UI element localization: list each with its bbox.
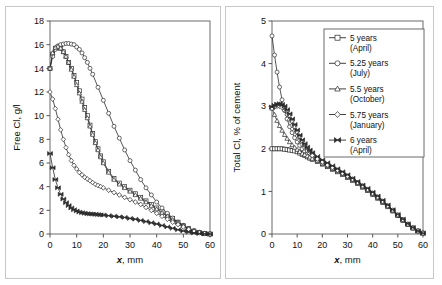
chart-panel-left: 0246810121416180102030405060x, mmFree Cl…: [5, 6, 221, 279]
data-point-marker-circle: [275, 70, 279, 74]
data-point-marker-triangle: [280, 128, 284, 132]
legend-label-primary: 5.25 years: [350, 59, 388, 68]
x-tick-label: 20: [98, 240, 108, 250]
data-point-marker-circle: [88, 66, 92, 70]
x-tick-label: 60: [205, 240, 215, 250]
y-tick-label: 8: [39, 135, 44, 145]
data-point-marker-diamond: [128, 197, 132, 202]
data-point-marker-cross: [149, 221, 154, 225]
data-point-marker-circle: [139, 178, 143, 182]
x-axis-label: x, mm: [116, 254, 143, 265]
chart-panel-right: 0123450102030405060x, mmTotal Cl, % of c…: [225, 6, 434, 279]
data-point-marker-circle: [149, 193, 153, 197]
x-tick-label: 50: [393, 240, 403, 250]
data-point-marker-circle: [133, 168, 137, 172]
legend-label-primary: 5.5 years: [350, 85, 384, 94]
data-point-marker-diamond: [64, 145, 68, 150]
data-point-marker-cross: [160, 223, 165, 227]
y-tick-label: 18: [34, 16, 44, 26]
data-point-marker-cross: [292, 123, 297, 127]
y-axis-label: Total Cl, % of cement: [231, 82, 242, 172]
data-point-marker-circle: [270, 34, 274, 38]
data-point-marker-diamond: [117, 193, 121, 198]
data-point-marker-circle: [273, 53, 277, 57]
data-point-marker-cross: [58, 192, 63, 196]
x-tick-label: 50: [178, 240, 188, 250]
legend-label-secondary: (January): [350, 121, 385, 130]
data-point-marker-circle: [80, 51, 84, 55]
data-point-marker-cross: [295, 128, 300, 132]
data-point-marker-circle: [96, 85, 100, 89]
figure: 0246810121416180102030405060x, mmFree Cl…: [0, 0, 442, 285]
y-tick-label: 1: [261, 187, 266, 197]
data-point-marker-diamond: [48, 90, 52, 95]
data-point-marker-diamond: [122, 195, 126, 200]
y-tick-label: 0: [261, 229, 266, 239]
x-tick-label: 30: [125, 240, 135, 250]
y-axis-label: Free Cl, g/l: [11, 104, 22, 150]
legend-label-primary: 6 years: [350, 136, 377, 145]
data-point-marker-circle: [335, 61, 340, 66]
data-point-marker-circle: [85, 60, 89, 64]
data-point-marker-diamond: [112, 190, 116, 195]
data-point-marker-circle: [101, 98, 105, 102]
y-tick-label: 2: [261, 144, 266, 154]
legend-label-secondary: (October): [350, 95, 385, 104]
x-tick-label: 0: [269, 240, 274, 250]
data-point-marker-cross: [165, 225, 170, 229]
data-point-marker-cross: [128, 216, 133, 220]
x-tick-label: 30: [342, 240, 352, 250]
data-point-marker-circle: [155, 200, 159, 204]
y-tick-label: 2: [39, 206, 44, 216]
legend: 5 years(April)5.25 years(July)5.5 years(…: [324, 29, 424, 157]
data-point-marker-cross: [297, 133, 302, 137]
data-point-marker-circle: [123, 148, 127, 152]
data-point-marker-diamond: [138, 202, 142, 207]
data-point-marker-circle: [278, 85, 282, 89]
data-point-marker-diamond: [144, 205, 148, 210]
data-point-marker-cross: [144, 220, 149, 224]
y-tick-label: 16: [34, 40, 44, 50]
data-point-marker-square: [335, 35, 340, 40]
legend-label-primary: 5.75 years: [350, 111, 388, 120]
data-point-marker-diamond: [106, 188, 110, 193]
data-point-marker-diamond: [50, 97, 54, 102]
data-point-marker-diamond: [56, 117, 60, 122]
data-point-marker-triangle: [272, 112, 276, 116]
legend-label-secondary: (July): [350, 69, 370, 78]
data-point-marker-cross: [290, 117, 295, 121]
y-tick-label: 0: [39, 229, 44, 239]
y-tick-label: 10: [34, 111, 44, 121]
data-point-marker-cross: [287, 112, 292, 116]
x-tick-label: 20: [317, 240, 327, 250]
data-point-marker-triangle: [282, 132, 286, 136]
total-chloride-chart: 0123450102030405060x, mmTotal Cl, % of c…: [226, 7, 433, 278]
x-tick-label: 10: [292, 240, 302, 250]
y-tick-label: 4: [39, 182, 44, 192]
y-tick-label: 14: [34, 64, 44, 74]
data-point-marker-circle: [77, 47, 81, 51]
data-point-marker-triangle: [277, 123, 281, 127]
data-point-marker-cross: [176, 228, 181, 232]
data-point-marker-circle: [128, 159, 132, 163]
y-tick-label: 3: [261, 101, 266, 111]
y-tick-label: 5: [261, 16, 266, 26]
data-point-marker-diamond: [149, 208, 153, 213]
x-tick-label: 40: [368, 240, 378, 250]
data-point-marker-cross: [56, 186, 61, 190]
x-tick-label: 60: [418, 240, 428, 250]
data-point-marker-cross: [170, 226, 175, 230]
data-point-marker-diamond: [133, 200, 137, 205]
data-point-marker-cross: [112, 214, 117, 218]
data-point-marker-circle: [117, 136, 121, 140]
data-point-marker-diamond: [58, 127, 62, 132]
data-point-marker-diamond: [61, 137, 65, 142]
data-point-marker-triangle: [275, 118, 279, 122]
data-point-marker-circle: [144, 186, 148, 190]
data-point-marker-circle: [91, 72, 95, 76]
x-tick-label: 10: [72, 240, 82, 250]
data-point-marker-diamond: [66, 152, 70, 157]
legend-label-secondary: (April): [350, 44, 372, 53]
data-point-marker-cross: [133, 217, 138, 221]
x-tick-label: 40: [152, 240, 162, 250]
